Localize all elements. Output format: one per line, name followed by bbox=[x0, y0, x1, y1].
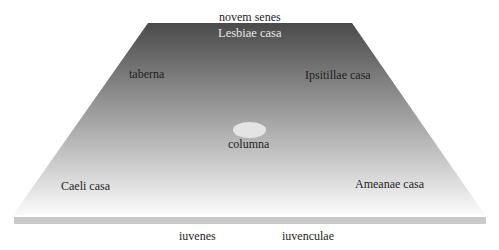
label-back-offstage: novem senes bbox=[219, 10, 281, 24]
label-audience-left: iuvenes bbox=[179, 229, 216, 243]
label-back-left: taberna bbox=[129, 67, 164, 81]
stage-front-edge bbox=[14, 217, 486, 224]
label-back-center: Lesbiae casa bbox=[218, 26, 282, 40]
label-front-right: Ameanae casa bbox=[355, 177, 424, 191]
label-back-right: Ipsitillae casa bbox=[305, 68, 371, 82]
label-front-left: Caeli casa bbox=[61, 179, 110, 193]
column-marker bbox=[233, 122, 266, 138]
stage-diagram: novem senes Lesbiae casa taberna Ipsitil… bbox=[0, 0, 499, 250]
label-center: columna bbox=[228, 137, 269, 151]
label-audience-right: iuvenculae bbox=[282, 229, 334, 243]
